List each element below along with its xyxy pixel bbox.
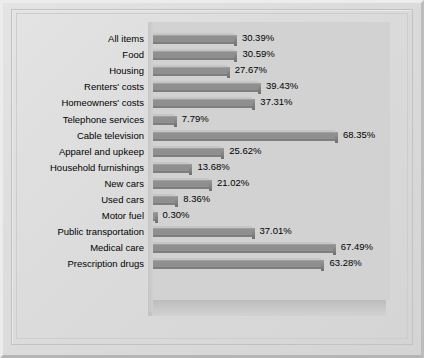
value-label: 63.28% xyxy=(329,257,361,269)
value-label: 13.68% xyxy=(197,161,229,173)
value-label: 8.36% xyxy=(183,193,210,205)
bar-row: Motor fuel0.30% xyxy=(0,208,424,224)
category-label: Renters' costs xyxy=(8,81,144,93)
bar-row: Food30.59% xyxy=(0,47,424,63)
bar xyxy=(153,194,175,205)
bar-end-cap xyxy=(209,180,212,191)
bar-end-cap xyxy=(258,83,261,94)
bar-end-cap xyxy=(252,228,255,239)
category-label: Food xyxy=(8,49,144,61)
bar-end-cap xyxy=(175,196,178,207)
bar-end-cap xyxy=(335,132,338,143)
bar xyxy=(153,65,227,76)
bar xyxy=(153,242,333,253)
bar xyxy=(153,162,189,173)
category-label: Housing xyxy=(8,65,144,77)
value-label: 30.39% xyxy=(242,32,274,44)
bar-chart: All items30.39%Food30.59%Housing27.67%Re… xyxy=(0,0,424,358)
category-label: Homeowners' costs xyxy=(8,97,144,109)
bar xyxy=(153,81,258,92)
bar-row: All items30.39% xyxy=(0,31,424,47)
bar-end-cap xyxy=(227,67,230,78)
bar xyxy=(153,258,321,269)
category-label: Apparel and upkeep xyxy=(8,146,144,158)
bar xyxy=(153,97,252,108)
bar-row: New cars21.02% xyxy=(0,176,424,192)
value-label: 27.67% xyxy=(235,64,267,76)
bar xyxy=(153,114,174,125)
bar-row: Housing27.67% xyxy=(0,63,424,79)
bar-end-cap xyxy=(321,260,324,271)
category-label: Telephone services xyxy=(8,114,144,126)
bar-row: Homeowners' costs37.31% xyxy=(0,95,424,111)
bar-end-cap xyxy=(252,99,255,110)
category-label: Public transportation xyxy=(8,226,144,238)
bar-end-cap xyxy=(221,148,224,159)
value-label: 37.01% xyxy=(260,225,292,237)
bar-row: Telephone services7.79% xyxy=(0,112,424,128)
bar xyxy=(153,33,234,44)
value-label: 30.59% xyxy=(242,48,274,60)
bar-row: Prescription drugs63.28% xyxy=(0,256,424,272)
bar-end-cap xyxy=(333,244,336,255)
bar-end-cap xyxy=(189,164,192,175)
category-label: Used cars xyxy=(8,194,144,206)
bar-end-cap xyxy=(234,35,237,46)
category-label: Medical care xyxy=(8,242,144,254)
bar-row: Apparel and upkeep25.62% xyxy=(0,144,424,160)
category-label: Prescription drugs xyxy=(8,258,144,270)
bar-end-cap xyxy=(155,212,158,223)
category-label: Household furnishings xyxy=(8,162,144,174)
bar-row: Cable television68.35% xyxy=(0,128,424,144)
bar-row: Public transportation37.01% xyxy=(0,224,424,240)
bar-end-cap xyxy=(234,51,237,62)
category-label: New cars xyxy=(8,178,144,190)
value-label: 25.62% xyxy=(229,145,261,157)
bar xyxy=(153,178,209,189)
bar xyxy=(153,226,252,237)
chart-panel: All items30.39%Food30.59%Housing27.67%Re… xyxy=(0,0,424,358)
bar-row: Renters' costs39.43% xyxy=(0,79,424,95)
bar-row: Used cars8.36% xyxy=(0,192,424,208)
bar-row: Medical care67.49% xyxy=(0,240,424,256)
category-label: Cable television xyxy=(8,130,144,142)
plot-floor xyxy=(152,300,386,316)
value-label: 39.43% xyxy=(266,80,298,92)
value-label: 67.49% xyxy=(341,241,373,253)
bar-row: Household furnishings13.68% xyxy=(0,160,424,176)
value-label: 21.02% xyxy=(217,177,249,189)
value-label: 0.30% xyxy=(163,209,190,221)
bar xyxy=(153,49,234,60)
value-label: 37.31% xyxy=(260,96,292,108)
category-label: All items xyxy=(8,33,144,45)
bar-end-cap xyxy=(174,116,177,127)
bar xyxy=(153,146,221,157)
bar xyxy=(153,130,335,141)
value-label: 7.79% xyxy=(182,113,209,125)
category-label: Motor fuel xyxy=(8,210,144,222)
value-label: 68.35% xyxy=(343,129,375,141)
